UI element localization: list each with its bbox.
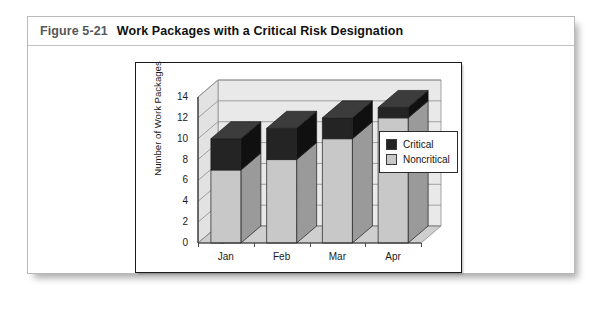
legend-swatch-noncritical xyxy=(386,154,397,165)
x-tick-label-feb: Feb xyxy=(273,251,290,262)
figure-panel: Figure 5-21 Work Packages with a Critica… xyxy=(27,16,575,274)
figure-title: Work Packages with a Critical Risk Desig… xyxy=(117,24,403,38)
x-tick-label-jan: Jan xyxy=(218,251,234,262)
x-tick-label-mar: Mar xyxy=(329,251,346,262)
legend-label: Critical xyxy=(403,139,434,150)
legend-item-noncritical: Noncritical xyxy=(386,152,450,167)
x-tick-mark xyxy=(254,243,255,247)
legend-item-critical: Critical xyxy=(386,137,450,152)
x-tick-mark xyxy=(365,243,366,247)
legend-label: Noncritical xyxy=(403,154,450,165)
x-tick-label-apr: Apr xyxy=(385,251,401,262)
x-tick-mark xyxy=(310,243,311,247)
legend-swatch-critical xyxy=(386,139,397,150)
chart-legend: CriticalNoncritical xyxy=(379,131,458,173)
chart-frame: Number of Work Packages 02468101214 JanF… xyxy=(135,62,462,273)
figure-number: Figure 5-21 xyxy=(40,24,108,38)
chart-area: Number of Work Packages 02468101214 JanF… xyxy=(136,63,461,272)
figure-caption-bar: Figure 5-21 Work Packages with a Critica… xyxy=(28,17,574,46)
x-tick-mark xyxy=(198,243,199,247)
x-tick-mark xyxy=(421,243,422,247)
